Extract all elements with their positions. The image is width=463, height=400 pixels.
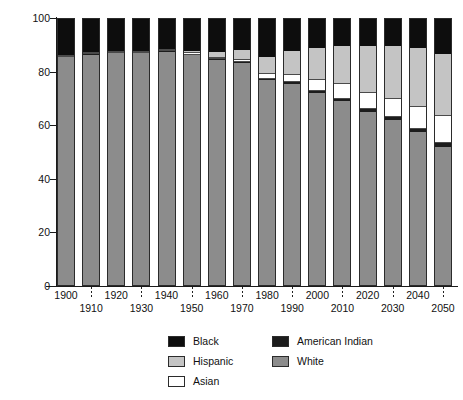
- x-axis-label-1990: 1990: [276, 303, 308, 314]
- x-axis-label-2030: 2030: [377, 303, 409, 314]
- segment-white: [133, 53, 149, 285]
- legend-label: Hispanic: [193, 356, 233, 367]
- segment-white: [108, 53, 124, 285]
- hispanic-swatch-icon: [168, 356, 185, 367]
- white-swatch-icon: [272, 356, 289, 367]
- segment-hispanic: [309, 48, 325, 80]
- y-axis-tick: [50, 232, 57, 233]
- bar-2010[interactable]: [333, 18, 351, 286]
- legend-label: Asian: [193, 376, 219, 387]
- segment-hispanic: [435, 54, 451, 117]
- legend-item-american-indian[interactable]: American Indian: [272, 331, 373, 351]
- segment-asian: [334, 84, 350, 99]
- segment-asian: [435, 116, 451, 143]
- legend-column-two: American IndianWhite: [272, 331, 373, 371]
- segment-white: [159, 52, 175, 285]
- x-axis-tick-dots: [393, 287, 394, 298]
- bar-1910[interactable]: [82, 18, 100, 286]
- segment-white: [334, 101, 350, 285]
- segment-white: [410, 132, 426, 285]
- bar-2020[interactable]: [359, 18, 377, 286]
- segment-asian: [309, 80, 325, 91]
- bar-2000[interactable]: [308, 18, 326, 286]
- bar-2050[interactable]: [434, 18, 452, 286]
- x-axis-label-1930: 1930: [125, 303, 157, 314]
- segment-white: [234, 63, 250, 285]
- bar-1920[interactable]: [107, 18, 125, 286]
- y-axis-tick-label-text: 100: [8, 13, 50, 23]
- bar-2040[interactable]: [409, 18, 427, 286]
- y-axis-tick-label-text: 60: [8, 120, 50, 130]
- x-axis-label-1970: 1970: [226, 303, 258, 314]
- segment-hispanic: [410, 48, 426, 107]
- legend-item-asian[interactable]: Asian: [168, 371, 233, 391]
- x-axis-label-2040: 2040: [402, 290, 434, 301]
- bar-1900[interactable]: [57, 18, 75, 286]
- y-axis-tick-label-text: 0: [8, 281, 50, 291]
- asian-swatch-icon: [168, 376, 185, 387]
- segment-black: [259, 19, 275, 57]
- x-axis-label-1940: 1940: [151, 290, 183, 301]
- legend-label: White: [297, 356, 324, 367]
- segment-hispanic: [284, 51, 300, 75]
- bar-1990[interactable]: [283, 18, 301, 286]
- bar-1960[interactable]: [208, 18, 226, 286]
- segment-white: [259, 80, 275, 285]
- x-axis-label-2000: 2000: [301, 290, 333, 301]
- bar-1980[interactable]: [258, 18, 276, 286]
- y-axis-tick-label-text: 20: [8, 227, 50, 237]
- segment-black: [334, 19, 350, 46]
- x-axis-label-2020: 2020: [352, 290, 384, 301]
- segment-black: [108, 19, 124, 51]
- x-axis-label-1920: 1920: [100, 290, 132, 301]
- x-axis-tick-dots: [141, 287, 142, 298]
- bar-2030[interactable]: [384, 18, 402, 286]
- legend-label: Black: [193, 336, 219, 347]
- y-axis-tick-label: 80: [0, 67, 50, 77]
- y-axis-tick-label-text: 80: [8, 67, 50, 77]
- segment-white: [360, 112, 376, 285]
- bar-1970[interactable]: [233, 18, 251, 286]
- x-axis-label-1900: 1900: [50, 290, 82, 301]
- segment-hispanic: [334, 46, 350, 85]
- segment-asian: [410, 107, 426, 128]
- segment-white: [309, 93, 325, 285]
- segment-white: [284, 84, 300, 285]
- segment-black: [184, 19, 200, 51]
- legend-item-hispanic[interactable]: Hispanic: [168, 351, 233, 371]
- x-axis-label-1950: 1950: [176, 303, 208, 314]
- legend-item-white[interactable]: White: [272, 351, 373, 371]
- black-swatch-icon: [168, 336, 185, 347]
- bar-1930[interactable]: [132, 18, 150, 286]
- legend-label: American Indian: [297, 336, 373, 347]
- american-indian-swatch-icon: [272, 336, 289, 347]
- y-axis-tick-label: 40: [0, 174, 50, 184]
- segment-black: [83, 19, 99, 52]
- chart-legend: BlackHispanicAsian American IndianWhite: [168, 331, 438, 391]
- segment-black: [284, 19, 300, 51]
- x-axis-tick-dots: [91, 287, 92, 298]
- segment-black: [133, 19, 149, 51]
- segment-black: [360, 19, 376, 46]
- x-axis-tick-dots: [443, 287, 444, 298]
- legend-item-black[interactable]: Black: [168, 331, 233, 351]
- segment-asian: [385, 99, 401, 117]
- x-axis-label-2010: 2010: [326, 303, 358, 314]
- bar-1940[interactable]: [158, 18, 176, 286]
- y-axis-tick: [50, 72, 57, 73]
- plot-area: [57, 18, 452, 286]
- y-axis-tick-label: 20: [0, 227, 50, 237]
- bar-1950[interactable]: [183, 18, 201, 286]
- segment-black: [234, 19, 250, 50]
- segment-white: [385, 120, 401, 285]
- segment-white: [209, 60, 225, 285]
- x-axis-label-1980: 1980: [251, 290, 283, 301]
- segment-black: [309, 19, 325, 48]
- segment-hispanic: [259, 57, 275, 74]
- legend-column-one: BlackHispanicAsian: [168, 331, 233, 391]
- x-axis-label-1960: 1960: [201, 290, 233, 301]
- x-axis-tick-dots: [242, 287, 243, 298]
- segment-white: [58, 57, 74, 285]
- y-axis-tick: [50, 18, 57, 19]
- segment-asian: [360, 93, 376, 109]
